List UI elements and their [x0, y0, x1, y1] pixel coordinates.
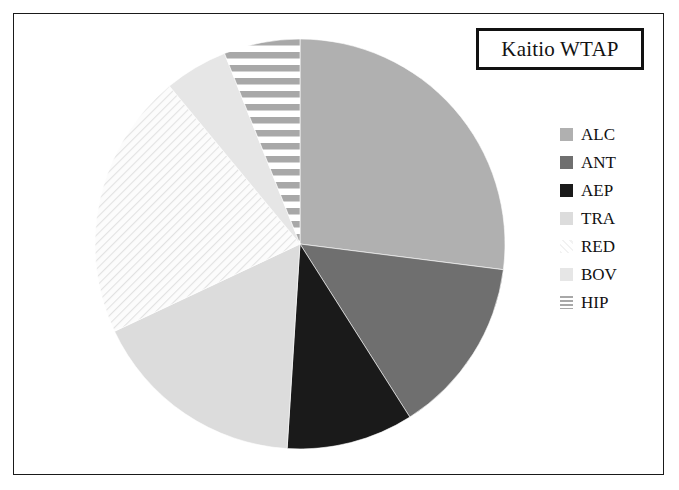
legend-label: ANT — [581, 154, 616, 171]
legend-item-hip[interactable]: HIP — [560, 288, 670, 316]
legend-label: AEP — [581, 182, 613, 199]
legend-item-bov[interactable]: BOV — [560, 260, 670, 288]
legend-swatch-bov-icon — [560, 268, 573, 281]
page-title: Kaitio WTAP — [501, 37, 618, 62]
legend-label: ALC — [581, 126, 615, 143]
legend-item-red[interactable]: RED — [560, 232, 670, 260]
chart-page: Kaitio WTAP ALCANTAEPTRAREDBOVHIP — [0, 0, 679, 490]
legend-swatch-aep-icon — [560, 184, 573, 197]
legend-swatch-alc-icon — [560, 128, 573, 141]
pie-slice-alc[interactable] — [300, 39, 505, 270]
legend-swatch-tra-icon — [560, 212, 573, 225]
legend-swatch-ant-icon — [560, 156, 573, 169]
legend-label: RED — [581, 238, 615, 255]
legend-swatch-red-icon — [560, 240, 573, 253]
legend-swatch-hip-icon — [560, 296, 573, 309]
legend-label: HIP — [581, 294, 608, 311]
chart-legend: ALCANTAEPTRAREDBOVHIP — [560, 120, 670, 316]
legend-label: BOV — [581, 266, 617, 283]
legend-label: TRA — [581, 210, 615, 227]
legend-item-alc[interactable]: ALC — [560, 120, 670, 148]
pie-slice-group — [95, 39, 505, 449]
chart-title-box: Kaitio WTAP — [476, 28, 644, 70]
legend-item-ant[interactable]: ANT — [560, 148, 670, 176]
legend-item-aep[interactable]: AEP — [560, 176, 670, 204]
legend-item-tra[interactable]: TRA — [560, 204, 670, 232]
